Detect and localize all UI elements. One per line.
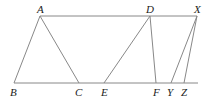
label-B: B <box>10 86 17 98</box>
segment-XY <box>171 16 197 83</box>
geometry-diagram: A D X B C E F Y Z <box>0 0 212 99</box>
label-D: D <box>145 3 154 15</box>
label-Z: Z <box>181 86 188 98</box>
label-A: A <box>36 3 44 15</box>
segment-XZ <box>184 16 197 83</box>
label-F: F <box>152 86 160 98</box>
segment-DE <box>104 16 150 83</box>
label-Y: Y <box>167 86 175 98</box>
label-X: X <box>193 3 202 15</box>
label-E: E <box>100 86 108 98</box>
segment-AB <box>14 16 40 83</box>
segment-AC <box>40 16 79 83</box>
label-C: C <box>75 86 83 98</box>
segment-DF <box>150 16 156 83</box>
